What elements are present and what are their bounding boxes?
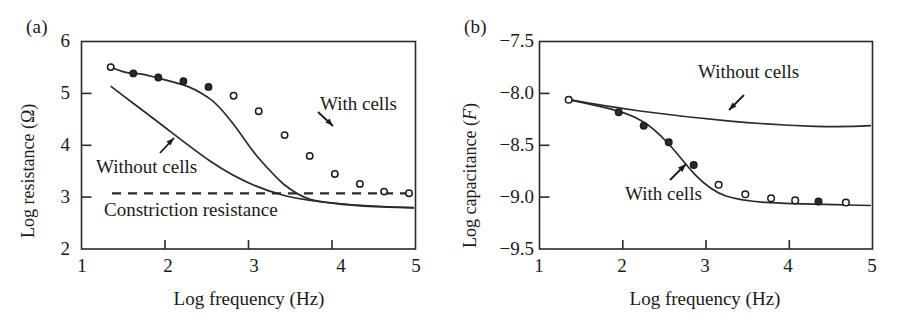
panel-b: (b) Log capacitance (F) Log frequency (H… — [450, 0, 899, 324]
panel-b-plot — [450, 0, 899, 324]
panel-a-without-cells-curve — [111, 86, 414, 207]
panel-a-plot — [0, 0, 449, 324]
panel-b-without-cells-curve — [569, 100, 871, 127]
panel-a-y-ticks — [82, 93, 92, 197]
panel-a-with-cells-markers — [108, 64, 413, 197]
panel-b-with-cells-markers — [565, 96, 849, 205]
panel-a: (a) Log resistance (Ω) Log frequency (Hz… — [0, 0, 449, 324]
panel-b-arrow-with-cells — [670, 164, 686, 180]
panel-b-y-ticks — [540, 93, 550, 197]
figure-container: (a) Log resistance (Ω) Log frequency (Hz… — [0, 0, 899, 324]
panel-b-x-ticks — [623, 240, 790, 249]
panel-a-with-cells-curve — [111, 67, 414, 208]
panel-a-arrow-with-cells — [318, 112, 333, 126]
panel-a-x-ticks — [165, 240, 332, 249]
panel-b-axes-frame — [540, 42, 873, 250]
panel-b-with-cells-curve — [569, 100, 871, 206]
panel-b-arrow-without-cells — [729, 95, 744, 110]
panel-a-arrow-without-cells — [160, 138, 174, 153]
